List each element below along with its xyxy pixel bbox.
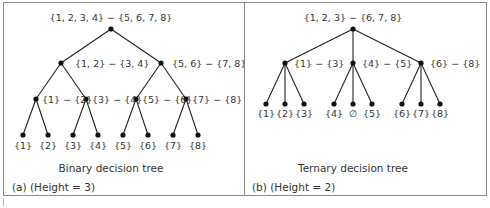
root-label: {1, 2, 3} − {6, 7, 8} [304, 12, 403, 23]
leaf-node [145, 132, 150, 137]
empty-set-label: ∅ [349, 108, 357, 119]
node-label: {5, 6} − {7, 8} [172, 58, 246, 69]
ternary-tree-diagram: {1, 2, 3} − {6, 7, 8} {1} − {3} {4} − {5… [245, 3, 488, 197]
panel-ternary-tree: {1, 2, 3} − {6, 7, 8} {1} − {3} {4} − {5… [244, 2, 487, 196]
node-label: {6} − {8} [430, 58, 480, 69]
leaf-label: {7} [164, 140, 182, 151]
tree-node [33, 96, 38, 101]
leaf-node [263, 101, 268, 106]
leaf-label: {8} [431, 108, 449, 119]
node-label: {1} − {3} [294, 58, 344, 69]
leaf-node [437, 101, 442, 106]
node-label: {5} − {6} [142, 94, 192, 105]
leaf-node [195, 132, 200, 137]
leaf-node [331, 101, 336, 106]
leaf-label: {6} [139, 140, 157, 151]
leaf-node [301, 101, 306, 106]
node-label: {3} − {4} [92, 94, 142, 105]
panel-caption: (a) (Height = 3) [12, 181, 95, 193]
leaf-node [70, 132, 75, 137]
leaf-node [120, 132, 125, 137]
leaf-label: {3} [295, 108, 313, 119]
leaf-label: {5} [363, 108, 381, 119]
leaf-node [399, 101, 404, 106]
tree-node [350, 60, 355, 65]
leaf-node [369, 101, 374, 106]
leaf-node [170, 132, 175, 137]
figure-corner-mark [3, 198, 12, 206]
leaf-node [350, 101, 355, 106]
leaf-label: {5} [114, 140, 132, 151]
tree-node [282, 60, 287, 65]
node-label: {1, 2} − {3, 4} [75, 58, 149, 69]
root-node [108, 26, 113, 31]
tree-type-title: Ternary decision tree [297, 162, 408, 174]
leaf-label: {1} [257, 108, 275, 119]
ternary-tree-edges [266, 29, 440, 104]
tree-node [158, 60, 163, 65]
leaf-label: {7} [412, 108, 430, 119]
leaf-label: {2} [39, 140, 57, 151]
leaf-node [418, 101, 423, 106]
leaf-label: {6} [393, 108, 411, 119]
tree-node [58, 60, 63, 65]
node-label: {1} − {2} [42, 94, 92, 105]
root-node [350, 26, 355, 31]
leaf-node [45, 132, 50, 137]
leaf-node [282, 101, 287, 106]
binary-tree-diagram: {1, 2, 3, 4} − {5, 6, 7, 8} {1, 2} − {3,… [4, 3, 246, 197]
leaf-node [20, 132, 25, 137]
tree-type-title: Binary decision tree [59, 162, 164, 174]
node-label: {4} − {5} [362, 58, 412, 69]
leaf-label: {2} [276, 108, 294, 119]
leaf-label: {8} [189, 140, 207, 151]
node-label: {7} − {8} [192, 94, 242, 105]
leaf-label: {3} [64, 140, 82, 151]
panel-caption: (b) (Height = 2) [252, 181, 335, 193]
leaf-label: {4} [325, 108, 343, 119]
binary-tree-edges [23, 29, 198, 135]
leaf-node [95, 132, 100, 137]
leaf-label: {1} [14, 140, 32, 151]
root-label: {1, 2, 3, 4} − {5, 6, 7, 8} [50, 12, 173, 23]
leaf-label: {4} [89, 140, 107, 151]
tree-node [418, 60, 423, 65]
panel-binary-tree: {1, 2, 3, 4} − {5, 6, 7, 8} {1, 2} − {3,… [3, 2, 245, 196]
